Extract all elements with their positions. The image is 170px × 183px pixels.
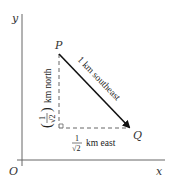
north-fraction-denominator: √2 xyxy=(48,115,57,123)
north-fraction-numerator: 1 xyxy=(38,116,47,120)
north-label-text: km north xyxy=(43,68,53,103)
right-angle-marker xyxy=(59,124,63,128)
point-q-label: Q xyxy=(133,129,142,142)
north-paren-close: ) xyxy=(39,107,55,112)
east-fraction-numerator: 1 xyxy=(75,134,79,143)
x-axis-label: x xyxy=(156,165,163,178)
y-axis-label: y xyxy=(11,12,19,25)
point-p-label: P xyxy=(54,39,63,52)
east-fraction-denominator: √2 xyxy=(72,144,80,153)
vector-diagram: y x O P Q 1 km southeast 1 √2 km east ( … xyxy=(0,0,170,183)
east-label-text: km east xyxy=(86,138,116,148)
origin-label: O xyxy=(9,165,18,178)
north-label: ( 1 √2 ) km north xyxy=(38,68,57,128)
